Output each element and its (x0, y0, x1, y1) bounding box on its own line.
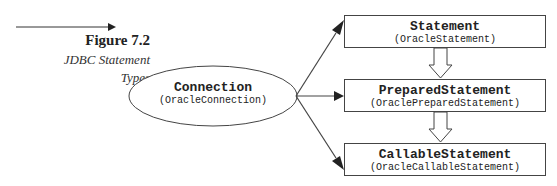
callable-statement-label: CallableStatement (345, 147, 545, 162)
statement-impl-label: (OracleStatement) (345, 34, 545, 46)
statement-to-prepared-block-arrow (429, 48, 452, 78)
connection-node: Connection (OracleConnection) (129, 80, 297, 107)
connection-to-statement-arrow (296, 20, 344, 96)
prepared-statement-impl-label: (OraclePreparedStatement) (345, 98, 545, 110)
connection-label: Connection (129, 80, 297, 95)
prepared-to-callable-block-arrow (429, 112, 452, 142)
prepared-statement-label: PreparedStatement (345, 83, 545, 98)
prepared-statement-box: PreparedStatement (OraclePreparedStateme… (344, 79, 546, 112)
callable-statement-box: CallableStatement (OracleCallableStateme… (344, 143, 546, 176)
connection-to-prepared-arrow (296, 91, 344, 101)
statement-label: Statement (345, 19, 545, 34)
connection-to-callable-arrow (296, 96, 344, 170)
callable-statement-impl-label: (OracleCallableStatement) (345, 162, 545, 174)
statement-box: Statement (OracleStatement) (344, 15, 546, 48)
connection-impl-label: (OracleConnection) (129, 95, 297, 107)
